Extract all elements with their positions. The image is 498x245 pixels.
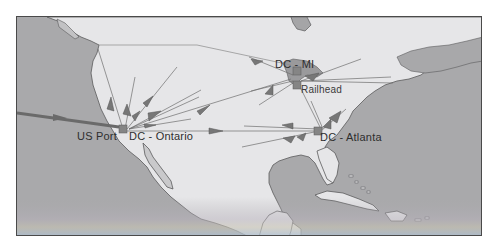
label-dc-atlanta: DC - Atlanta	[320, 132, 382, 143]
node-us-port-marker[interactable]	[119, 125, 127, 133]
label-dc-mi: DC - MI	[275, 59, 314, 70]
label-dc-ontario: DC - Ontario	[129, 131, 193, 142]
bottom-tint	[17, 197, 482, 236]
label-us-port: US Port	[77, 131, 117, 142]
map-canvas[interactable]	[17, 17, 482, 236]
node-railhead-marker[interactable]	[293, 81, 301, 89]
label-railhead: Railhead	[301, 85, 342, 95]
network-map[interactable]: US Port DC - Ontario DC - MI Railhead DC…	[16, 16, 482, 236]
